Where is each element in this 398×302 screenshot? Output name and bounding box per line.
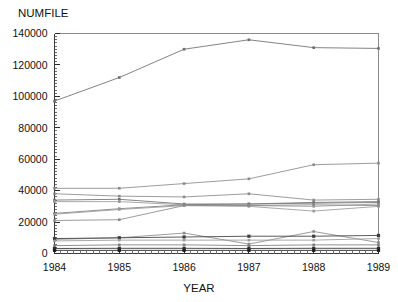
series-marker: [183, 196, 186, 199]
series-marker: [53, 213, 56, 216]
series-marker: [183, 48, 186, 51]
series-marker: [248, 192, 251, 195]
series-marker: [247, 249, 250, 252]
series-marker: [183, 244, 186, 247]
series-marker: [118, 208, 121, 211]
series-marker: [118, 200, 121, 203]
chart-background: [0, 0, 398, 302]
x-tick-label: 1984: [43, 261, 67, 273]
series-marker: [53, 192, 56, 195]
series-marker: [183, 204, 186, 207]
y-tick-label: 140000: [12, 27, 47, 39]
series-marker: [248, 244, 251, 247]
y-tick-label: 20000: [18, 216, 47, 228]
x-tick-label: 1987: [237, 261, 261, 273]
series-marker: [118, 187, 121, 190]
series-marker: [53, 200, 56, 203]
series-marker: [118, 195, 121, 198]
x-tick-label: 1989: [367, 261, 391, 273]
series-marker: [118, 249, 121, 252]
series-marker: [377, 47, 380, 50]
chart-figure: NUMFILE YEAR 020000400006000080000100000…: [0, 0, 398, 302]
y-axis-title: NUMFILE: [18, 7, 69, 19]
series-marker: [53, 219, 56, 222]
series-marker: [183, 182, 186, 185]
series-marker: [53, 244, 56, 247]
x-tick-label: 1985: [108, 261, 132, 273]
series-marker: [53, 249, 56, 252]
y-tick-label: 0: [42, 247, 48, 259]
y-tick-label: 100000: [12, 90, 47, 102]
series-marker: [247, 235, 250, 238]
series-marker: [118, 218, 121, 221]
y-tick-label: 40000: [18, 184, 47, 196]
series-marker: [377, 204, 380, 207]
series-marker: [118, 244, 121, 247]
series-marker: [248, 38, 251, 41]
series-marker: [377, 237, 380, 240]
series-marker: [377, 234, 380, 237]
series-marker: [312, 249, 315, 252]
series-marker: [377, 249, 380, 252]
series-marker: [312, 203, 315, 206]
series-marker: [312, 235, 315, 238]
series-marker: [53, 240, 56, 243]
y-tick-label: 80000: [18, 122, 47, 134]
series-marker: [183, 239, 186, 242]
x-tick-label: 1988: [302, 261, 326, 273]
series-marker: [248, 204, 251, 207]
series-marker: [312, 239, 315, 242]
series-marker: [312, 163, 315, 166]
line-chart: NUMFILE YEAR 020000400006000080000100000…: [0, 0, 398, 302]
y-tick-label: 120000: [12, 59, 47, 71]
series-marker: [377, 162, 380, 165]
series-marker: [377, 198, 380, 201]
x-tick-label: 1986: [172, 261, 196, 273]
series-marker: [377, 241, 380, 244]
x-axis-title: YEAR: [183, 282, 214, 294]
series-marker: [118, 198, 121, 201]
series-marker: [312, 46, 315, 49]
series-marker: [53, 100, 56, 103]
y-tick-label: 60000: [18, 153, 47, 165]
series-marker: [248, 239, 251, 242]
series-marker: [53, 187, 56, 190]
series-marker: [377, 244, 380, 247]
series-marker: [183, 232, 186, 235]
series-marker: [118, 239, 121, 242]
series-marker: [183, 249, 186, 252]
series-marker: [312, 244, 315, 247]
series-marker: [118, 76, 121, 79]
series-marker: [312, 210, 315, 213]
series-marker: [377, 201, 380, 204]
series-marker: [183, 235, 186, 238]
series-marker: [248, 178, 251, 181]
series-marker: [312, 230, 315, 233]
series-marker: [312, 199, 315, 202]
